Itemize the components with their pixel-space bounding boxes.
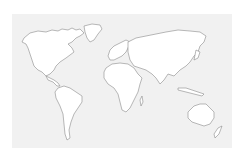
north-america bbox=[22, 28, 84, 76]
world-map bbox=[0, 0, 244, 155]
europe bbox=[108, 40, 130, 60]
greenland bbox=[84, 24, 102, 42]
southeast-asia-islands bbox=[178, 88, 204, 96]
south-america bbox=[55, 86, 82, 140]
central-america bbox=[46, 76, 60, 86]
new-zealand bbox=[214, 126, 222, 138]
africa bbox=[104, 63, 142, 112]
australia bbox=[188, 104, 214, 126]
madagascar bbox=[140, 96, 143, 106]
